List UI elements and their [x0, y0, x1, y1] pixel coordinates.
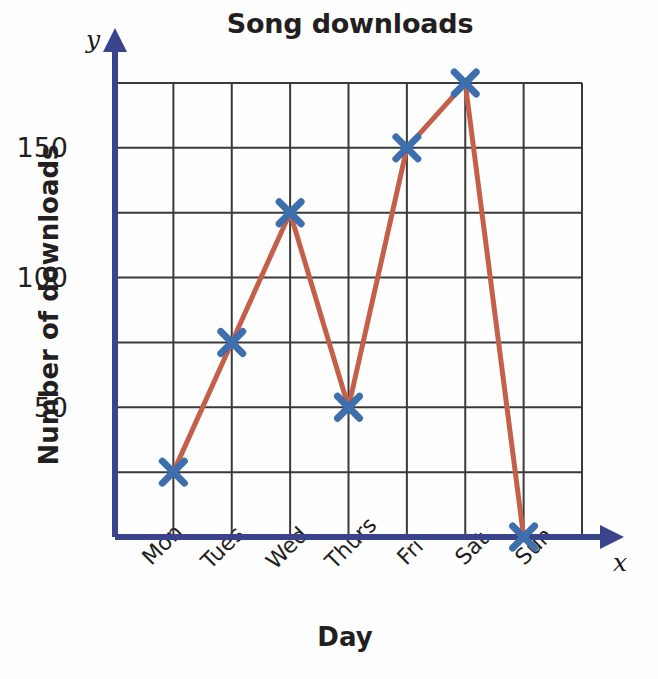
plot-area [0, 0, 658, 679]
grid-lines [115, 83, 582, 537]
axis-lines [103, 28, 624, 549]
chart-page: Song downloads Number of downloads Day y… [0, 0, 658, 679]
